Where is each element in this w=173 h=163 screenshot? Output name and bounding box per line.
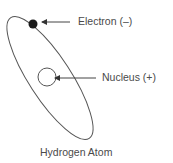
diagram-title: Hydrogen Atom (40, 147, 112, 158)
nucleus-label: Nucleus (+) (102, 72, 156, 83)
electron-label: Electron (–) (78, 16, 132, 27)
nucleus-circle (38, 68, 56, 86)
electron-dot (29, 20, 38, 29)
